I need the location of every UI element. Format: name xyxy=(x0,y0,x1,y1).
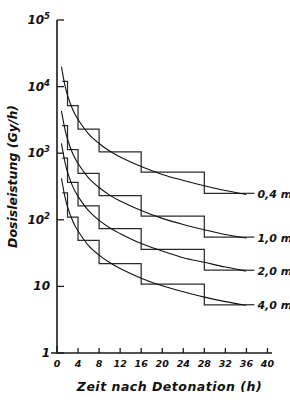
x-tick-label: 36 xyxy=(240,358,254,369)
x-tick-label: 12 xyxy=(114,358,128,369)
series-label: 4,0 m xyxy=(256,299,290,312)
x-tick-label: 16 xyxy=(135,358,149,369)
x-tick-label: 40 xyxy=(260,358,275,369)
y-tick-exponent: 2 xyxy=(44,211,50,221)
x-tick-label: 4 xyxy=(74,358,82,369)
figure: 0481216202428323640 110102103104105 0,4 … xyxy=(0,0,290,409)
y-tick-mantissa: 1 xyxy=(42,346,50,360)
y-tick-exponent: 4 xyxy=(43,78,50,88)
series-label: 0,4 m xyxy=(257,188,290,201)
x-tick-label: 20 xyxy=(156,358,170,369)
x-tick-label: 24 xyxy=(177,358,191,369)
y-tick-mantissa: 10 xyxy=(27,213,44,227)
series-label: 1,0 m xyxy=(257,232,290,245)
chart-canvas: 0481216202428323640 110102103104105 0,4 … xyxy=(0,0,290,409)
y-tick-mantissa: 10 xyxy=(27,13,44,27)
y-tick-exponent: 5 xyxy=(44,11,50,21)
y-tick-label: 1 xyxy=(42,346,50,360)
y-tick-label: 10 xyxy=(33,279,50,293)
x-axis-title: Zeit nach Detonation (h) xyxy=(76,379,262,394)
y-axis-title: Dosisleistung (Gy/h) xyxy=(5,105,20,248)
y-tick-mantissa: 10 xyxy=(27,146,44,160)
x-tick-label: 32 xyxy=(219,358,233,369)
y-tick-exponent: 3 xyxy=(44,144,50,154)
x-tick-label: 0 xyxy=(54,358,61,369)
x-tick-label: 8 xyxy=(96,358,103,369)
x-tick-label: 28 xyxy=(198,358,212,369)
y-tick-mantissa: 10 xyxy=(27,80,44,94)
y-tick-mantissa: 10 xyxy=(33,279,50,293)
series-label: 2,0 m xyxy=(257,265,290,278)
